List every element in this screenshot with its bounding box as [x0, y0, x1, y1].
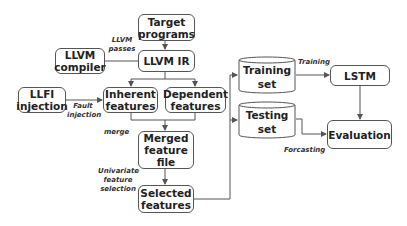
dependent-features-node: Dependent features [165, 87, 226, 113]
lstm-node: LSTM [330, 65, 390, 86]
testing-set-label: Testing set [239, 108, 295, 136]
llvm-ir-label: LLVM IR [143, 55, 189, 67]
selected-features-node: Selected features [138, 185, 194, 213]
target-programs-label: Target programs [138, 16, 195, 40]
univariate-feature-selection-label: Univariate feature selection [98, 167, 138, 194]
merge-label: merge [104, 128, 129, 137]
target-programs-node: Target programs [138, 14, 195, 41]
connector-lines [0, 0, 407, 226]
llvm-ir-node: LLVM IR [138, 50, 195, 72]
training-set-node: Training set [239, 62, 295, 92]
inherent-features-node: Inherent features [103, 87, 158, 113]
evaluation-label: Evaluation [328, 129, 391, 141]
merged-feature-file-label: Merged feature file [139, 132, 193, 168]
lstm-label: LSTM [344, 70, 376, 82]
llvm-compiler-node: LLVM compiler [55, 48, 105, 74]
forcasting-edge-label: Forcasting [284, 146, 325, 155]
evaluation-node: Evaluation [327, 120, 392, 149]
dependent-features-label: Dependent features [163, 88, 228, 112]
training-set-label: Training set [239, 63, 295, 91]
fault-injection-label: Fault injection [67, 102, 99, 120]
llfi-injection-label: LLFI injection [16, 88, 67, 112]
llvm-passes-label: LLVM passes [108, 36, 136, 54]
training-edge-label: Training [298, 58, 330, 67]
inherent-features-label: Inherent features [104, 88, 157, 112]
merged-feature-file-node: Merged feature file [138, 131, 194, 169]
testing-set-node: Testing set [239, 107, 295, 137]
llvm-compiler-label: LLVM compiler [54, 49, 105, 73]
llfi-injection-node: LLFI injection [18, 87, 66, 113]
selected-features-label: Selected features [139, 187, 193, 211]
